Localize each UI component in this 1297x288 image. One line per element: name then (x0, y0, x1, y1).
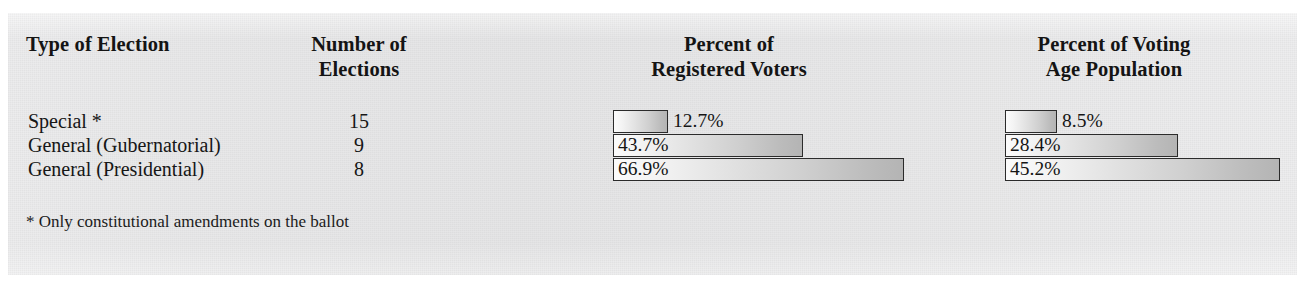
row-count-general-gubernatorial: 9 (279, 134, 439, 157)
column-header-type-of-election: Type of Election (26, 32, 170, 57)
bar-label-registered-special: 12.7% (668, 110, 723, 133)
bar-label-registered-presidential: 66.9% (613, 158, 668, 181)
bar-label-vap-gubernatorial: 28.4% (1005, 134, 1060, 157)
bar-registered-special (613, 110, 668, 133)
row-label-special: Special * (28, 110, 102, 133)
footnote-text: * Only constitutional amendments on the … (26, 212, 349, 232)
table-chart-content: Type of Election Number of Elections Per… (0, 0, 1289, 262)
bar-label-vap-presidential: 45.2% (1005, 158, 1060, 181)
bar-vap-special (1005, 110, 1057, 133)
column-header-number-of-elections: Number of Elections (279, 32, 439, 82)
bar-label-vap-special: 8.5% (1057, 110, 1103, 133)
row-label-general-gubernatorial: General (Gubernatorial) (28, 134, 221, 157)
row-count-general-presidential: 8 (279, 158, 439, 181)
row-count-special: 15 (279, 110, 439, 133)
bar-label-registered-gubernatorial: 43.7% (613, 134, 668, 157)
row-label-general-presidential: General (Presidential) (28, 158, 204, 181)
column-header-percent-registered-voters: Percent of Registered Voters (544, 32, 914, 82)
figure-root: Type of Election Number of Elections Per… (0, 0, 1297, 288)
column-header-percent-voting-age-population: Percent of Voting Age Population (938, 32, 1290, 82)
